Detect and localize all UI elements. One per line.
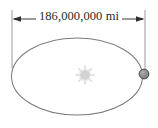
orbit-diagram-canvas xyxy=(0,0,158,128)
orbit-ellipse xyxy=(12,38,143,115)
planet-icon xyxy=(139,69,149,79)
orbit-diagram-figure: 186,000,000 mi xyxy=(0,0,158,128)
sun-icon xyxy=(76,66,94,84)
arrowhead-left-icon xyxy=(13,16,22,22)
arrowhead-right-icon xyxy=(136,16,145,22)
